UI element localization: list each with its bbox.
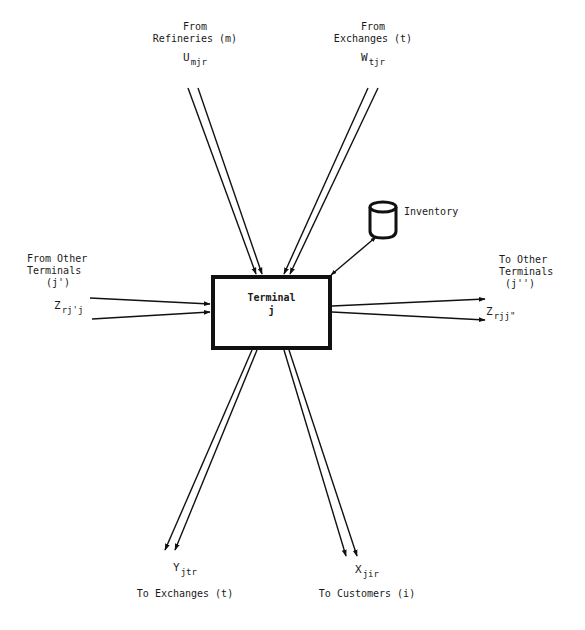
terminals-in-line1: From Other: [27, 253, 87, 265]
arrow-refineries-in: [188, 88, 262, 274]
variable-y: Yjtr: [140, 562, 230, 578]
variable-w-sub: tjr: [369, 57, 385, 67]
variable-z-out-main: Z: [486, 305, 493, 318]
exchanges-source-name: Exchanges (t): [318, 33, 428, 45]
terminal-node: Terminal j: [211, 275, 332, 350]
variable-x-sub: jir: [363, 569, 379, 579]
arrow-terminals-out: [332, 299, 485, 320]
variable-z-in-sub: rj'j: [62, 305, 84, 315]
variable-y-sub: jtr: [181, 567, 197, 577]
customers-dest-name: To Customers (i): [297, 588, 437, 600]
variable-z-in-main: Z: [54, 299, 61, 312]
variable-u-main: U: [183, 51, 190, 64]
arrow-inventory-link: [331, 237, 376, 275]
terminals-out-line2: Terminals: [499, 266, 553, 278]
variable-u-sub: mjr: [191, 57, 207, 67]
inventory-label: Inventory: [404, 206, 458, 218]
arrow-customers-out: [284, 350, 357, 556]
terminals-out-line3: (j''): [505, 278, 535, 290]
variable-z-out: Zrjj": [486, 306, 515, 322]
variable-x: Xjir: [322, 564, 412, 580]
variable-w-main: W: [361, 51, 368, 64]
exchanges-source-title: From: [318, 21, 428, 33]
exchanges-dest-name: To Exchanges (t): [115, 588, 255, 600]
variable-w: Wtjr: [318, 52, 428, 68]
variable-y-main: Y: [173, 561, 180, 574]
variable-u: Umjr: [140, 52, 250, 68]
variable-x-main: X: [355, 563, 362, 576]
arrow-exchanges-out: [165, 350, 257, 550]
terminals-out-line1: To Other: [499, 254, 547, 266]
variable-z-out-sub: rjj": [494, 311, 516, 321]
refineries-source-title: From: [140, 21, 250, 33]
refineries-source-name: Refineries (m): [140, 33, 250, 45]
diagram-canvas: Terminal j Inventory From Refineries (m)…: [0, 0, 585, 630]
terminal-subscript: j: [215, 305, 328, 317]
terminals-in-line2: Terminals: [27, 265, 81, 277]
cylinder-icon: [370, 202, 396, 238]
terminals-in-line3: (j'): [46, 277, 70, 289]
arrow-exchanges-in: [284, 88, 378, 274]
terminal-title: Terminal: [215, 292, 328, 304]
variable-z-in: Zrj'j: [54, 300, 83, 316]
arrow-terminals-in: [90, 298, 210, 319]
